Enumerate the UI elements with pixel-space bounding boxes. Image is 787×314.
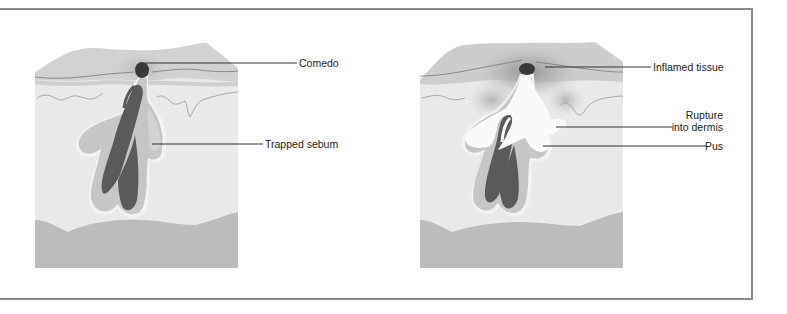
label-comedo: Comedo [299, 57, 339, 69]
acne-illustration [0, 0, 787, 314]
label-inflamed-tissue: Inflamed tissue [653, 61, 724, 73]
inflamed-diagram [420, 42, 706, 268]
label-into-dermis: into dermis [650, 121, 723, 133]
comedo-diagram [35, 43, 297, 268]
label-trapped-sebum: Trapped sebum [265, 138, 338, 150]
label-pus: Pus [690, 140, 723, 152]
label-rupture: Rupture [650, 109, 723, 121]
